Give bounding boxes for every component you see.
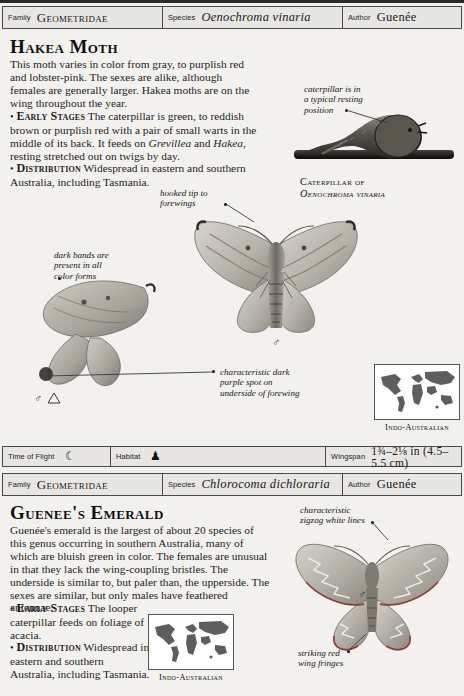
early-stages-heading: Early Stages — [16, 109, 85, 123]
distribution-map-2 — [148, 614, 234, 670]
male-symbol-emerald: ♂ — [358, 588, 366, 600]
species-value: Oenochroma vinaria — [201, 10, 310, 25]
entry-2-early-stages: • Early Stages The looper caterpillar fe… — [10, 602, 160, 642]
species-cell: Species Chlorocoma dichloraria — [163, 474, 343, 495]
entry-1-title: Hakea Moth — [10, 36, 118, 58]
anno-line-1: characteristic dark — [220, 367, 289, 377]
anno-line-1: striking red — [298, 648, 340, 658]
habitat-key: Habitat — [116, 452, 140, 461]
bullet-glyph: • — [10, 111, 14, 122]
caterpillar-note-leader — [346, 108, 392, 126]
author-cell: Author Guenée — [343, 474, 461, 495]
species-value: Chlorocoma dichloraria — [201, 477, 330, 492]
distribution-heading: Distribution — [16, 640, 81, 654]
anno-line-2: present in all — [54, 260, 102, 270]
anno-line-1: characteristic — [300, 505, 351, 515]
family-key: Family — [8, 13, 31, 22]
zigzag-lines-note: characteristic zigzag white lines — [300, 505, 365, 526]
anno-line-2: wing fringes — [298, 658, 343, 668]
bullet-glyph: • — [10, 163, 14, 174]
hooked-tip-leader — [226, 202, 260, 226]
author-key: Author — [348, 480, 371, 489]
early-stages-italic-1: Grevillea — [149, 137, 192, 149]
entry-1-info-bar: Time of Flight ☾ Habitat ♟ Wingspan 1¾–2… — [2, 446, 462, 467]
anno-line-3: position — [304, 105, 333, 115]
entry-1-intro: This moth varies in color from gray, to … — [10, 58, 252, 110]
early-stages-italic-2: Hakea — [213, 137, 243, 149]
world-map-icon — [375, 365, 459, 419]
family-cell: Family Geometridae — [3, 474, 163, 495]
early-stages-heading: Early Stages — [16, 601, 85, 615]
entry-2-header-bar: Family Geometridae Species Chlorocoma di… — [2, 473, 462, 496]
moon-icon: ☾ — [65, 449, 76, 464]
anno-line-2: a typical resting — [304, 94, 363, 104]
habitat-cell: Habitat ♟ — [111, 447, 326, 466]
tree-icon: ♟ — [150, 449, 161, 464]
caption-line-2: Oenochroma vinaria — [300, 188, 385, 199]
anno-line-2: forewings — [160, 198, 196, 208]
bullet-glyph: • — [10, 603, 14, 614]
caterpillar-caption: Caterpillar of Oenochroma vinaria — [300, 176, 385, 199]
world-map-icon — [149, 615, 233, 669]
family-value: Geometridae — [37, 477, 108, 493]
anno-line-2: zigzag white lines — [300, 515, 365, 525]
top-rule — [0, 0, 464, 3]
anno-line-2: purple spot on — [220, 377, 273, 387]
author-value: Guenée — [377, 10, 417, 25]
zigzag-note-leader — [372, 520, 394, 542]
red-fringes-note: striking red wing fringes — [298, 648, 343, 669]
wingspan-key: Wingspan — [331, 452, 365, 461]
time-of-flight-cell: Time of Flight ☾ — [3, 447, 111, 466]
family-key: Family — [8, 480, 31, 489]
dark-bands-note-dot — [58, 277, 61, 280]
map-label-1: Indo-Australian — [374, 423, 460, 432]
anno-line-3: underside of forewing — [220, 388, 299, 398]
author-cell: Author Guenée — [343, 7, 461, 28]
entry-2-distribution: • Distribution Widespread in eastern and… — [10, 641, 150, 681]
distribution-heading: Distribution — [16, 161, 81, 175]
species-key: Species — [168, 480, 195, 489]
family-cell: Family Geometridae — [3, 7, 163, 28]
species-cell: Species Oenochroma vinaria — [163, 7, 343, 28]
species-key: Species — [168, 13, 195, 22]
map-label-2: Indo-Australian — [148, 673, 234, 682]
family-value: Geometridae — [37, 10, 108, 26]
hooked-tip-note: hooked tip to forewings — [160, 188, 207, 209]
wingspan-cell: Wingspan 1¾–2⅛ in (4.5–5.5 cm) — [326, 447, 461, 466]
field-guide-page: Family Geometridae Species Oenochroma vi… — [0, 0, 464, 696]
male-symbol-upperside: ♂ — [272, 336, 280, 348]
male-symbol-underside: ♂ — [34, 392, 42, 404]
triangle-marker-icon — [48, 392, 62, 404]
entry-1-early-stages: • Early Stages The caterpillar is green,… — [10, 110, 260, 163]
entry-1-header-bar: Family Geometridae Species Oenochroma vi… — [2, 6, 462, 29]
dark-bands-note: dark bands are present in all color form… — [54, 250, 109, 281]
early-stages-text-2: and — [191, 137, 213, 149]
author-key: Author — [348, 13, 371, 22]
red-fringes-leader — [348, 634, 370, 654]
anno-line-1: caterpillar is in — [304, 84, 361, 94]
anno-line-1: hooked tip to — [160, 188, 207, 198]
caption-line-1: Caterpillar of — [300, 176, 365, 187]
bullet-glyph: • — [10, 642, 14, 653]
anno-line-1: dark bands are — [54, 250, 109, 260]
purple-spot-leader — [44, 370, 216, 382]
wingspan-value: 1¾–2⅛ in (4.5–5.5 cm) — [371, 445, 461, 469]
distribution-map-1 — [374, 364, 460, 420]
entry-1-distribution: • Distribution Widespread in eastern and… — [10, 162, 260, 189]
time-of-flight-key: Time of Flight — [8, 452, 55, 461]
purple-spot-note: characteristic dark purple spot on under… — [220, 367, 299, 398]
entry-2-title: Guenee's Emerald — [10, 502, 164, 524]
author-value: Guenée — [377, 477, 417, 492]
